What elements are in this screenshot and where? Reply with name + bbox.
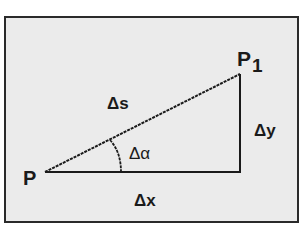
horizontal-leg-label: Δx <box>134 191 156 210</box>
vertical-leg-label: Δy <box>254 121 276 140</box>
hypotenuse-label: Δs <box>107 94 129 113</box>
triangle-diagram: P P1 Δs Δy Δα Δx <box>0 0 305 230</box>
point-p1-label: P1 <box>237 47 263 76</box>
angle-arc <box>110 140 121 172</box>
angle-label: Δα <box>129 144 150 163</box>
point-p-label: P <box>23 167 36 189</box>
